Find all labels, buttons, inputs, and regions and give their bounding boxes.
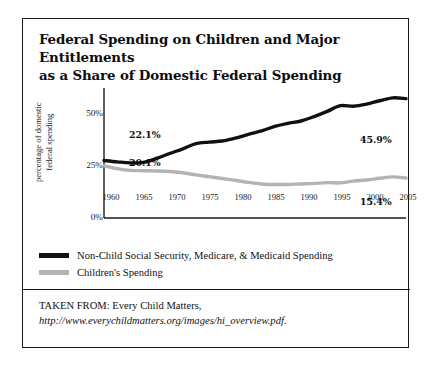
- data-label-end-black: 45.9%: [360, 134, 392, 145]
- chart-legend: Non-Child Social Security, Medicare, & M…: [39, 247, 399, 281]
- data-label-start-black: 22.1%: [129, 129, 161, 140]
- data-label-end-gray: 15.4%: [360, 196, 392, 207]
- figure-title-line-1: Federal Spending on Children and Major E…: [39, 31, 395, 67]
- legend-item-non-child-entitlements: Non-Child Social Security, Medicare, & M…: [39, 247, 399, 264]
- source-prefix: TAKEN FROM: Every Child Matters,: [39, 300, 201, 311]
- figure-title: Federal Spending on Children and Major E…: [39, 31, 395, 84]
- source-divider: [23, 289, 410, 290]
- legend-item-childrens-spending: Children's Spending: [39, 264, 399, 281]
- series-line-childrens-spending: [104, 166, 406, 185]
- figure-frame: Federal Spending on Children and Major E…: [22, 18, 409, 348]
- source-url: http://www.everychildmatters.org/images/…: [39, 315, 287, 326]
- legend-swatch-gray: [39, 270, 69, 275]
- chart-svg: [23, 79, 410, 244]
- source-attribution: TAKEN FROM: Every Child Matters, http://…: [39, 298, 391, 328]
- data-label-start-gray: 20.1%: [129, 157, 161, 168]
- legend-label-childrens-spending: Children's Spending: [77, 267, 163, 278]
- legend-swatch-black: [39, 253, 69, 258]
- legend-label-non-child-entitlements: Non-Child Social Security, Medicare, & M…: [77, 250, 333, 261]
- chart-plot-area: percentage of domestic federal spending …: [23, 79, 410, 244]
